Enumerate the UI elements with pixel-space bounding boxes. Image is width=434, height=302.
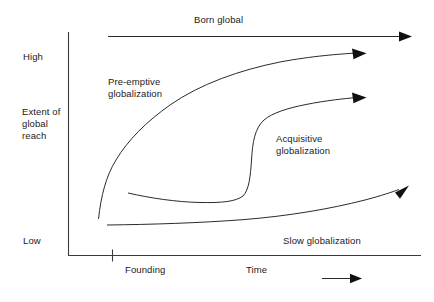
pre-emptive-globalization-label-line-1: Pre-emptive: [108, 76, 160, 88]
x-axis-founding-label: Founding: [125, 264, 165, 276]
born-global-trajectory: [108, 32, 412, 42]
slow-globalization-trajectory: [107, 186, 409, 226]
y-axis-high-label: High: [23, 51, 43, 63]
pre-emptive-globalization-trajectory: [99, 48, 367, 219]
y-axis-title-line-2: global: [22, 118, 48, 130]
pre-emptive-globalization-arrowhead-icon: [352, 48, 367, 59]
time-arrow-head-icon: [350, 274, 362, 283]
acquisitive-globalization-arrowhead-icon: [352, 93, 367, 104]
time-direction-arrow: [322, 274, 362, 283]
acquisitive-globalization-label-line-1: Acquisitive: [276, 133, 323, 145]
diagram-canvas: [0, 0, 434, 302]
y-axis-title-line-3: reach: [22, 130, 46, 142]
slow-globalization-arrowhead-icon: [395, 186, 409, 199]
slow-globalization-curve: [107, 190, 399, 226]
y-axis-low-label: Low: [23, 235, 41, 247]
pre-emptive-globalization-label-line-2: globalization: [108, 88, 162, 100]
born-global-arrowhead-icon: [399, 32, 412, 42]
slow-globalization-label: Slow globalization: [283, 235, 361, 247]
x-axis-time-label: Time: [246, 264, 267, 276]
acquisitive-globalization-label-line-2: globalization: [276, 145, 330, 157]
born-global-label: Born global: [194, 14, 243, 26]
axis-group: [68, 32, 421, 262]
y-axis-title-line-1: Extent of: [22, 106, 60, 118]
globalization-paths-diagram: High Extent of global reach Low Born glo…: [0, 0, 434, 302]
